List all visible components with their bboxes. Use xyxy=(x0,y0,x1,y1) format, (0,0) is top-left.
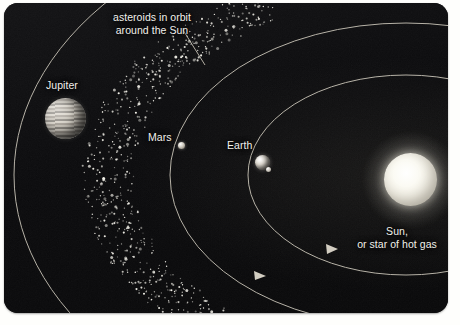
earth-orbit-arrow xyxy=(326,244,338,254)
asteroid-belt xyxy=(82,3,274,313)
mars-orbit-arrow xyxy=(254,271,266,280)
mars-body xyxy=(178,142,185,149)
space-panel: asteroids in orbitaround the Sun Jupiter… xyxy=(4,3,448,313)
moon-body xyxy=(266,167,271,172)
sun-body xyxy=(384,153,437,206)
jupiter-orbit-path xyxy=(14,3,448,313)
orbit-layer xyxy=(4,3,448,313)
jupiter-body xyxy=(45,98,86,139)
figure-root: asteroids in orbitaround the Sun Jupiter… xyxy=(0,0,460,325)
